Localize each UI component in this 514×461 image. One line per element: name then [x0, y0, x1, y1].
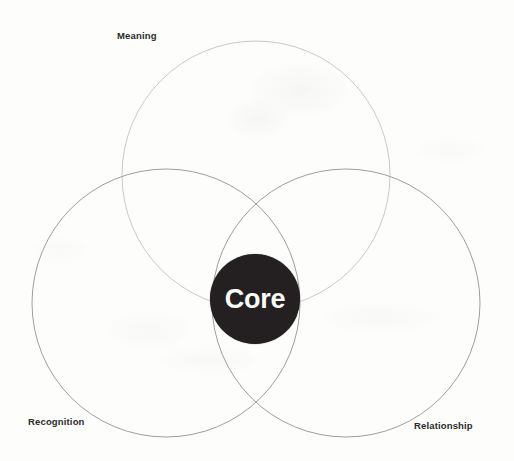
- venn-diagram: Meaning Recognition Relationship Core: [0, 0, 514, 461]
- venn-circles-canvas: [0, 0, 514, 461]
- venn-label-relationship: Relationship: [414, 421, 473, 431]
- venn-label-recognition: Recognition: [28, 417, 85, 427]
- venn-label-meaning: Meaning: [117, 31, 157, 41]
- venn-core-label: Core: [225, 285, 285, 312]
- venn-core-node[interactable]: Core: [210, 254, 300, 344]
